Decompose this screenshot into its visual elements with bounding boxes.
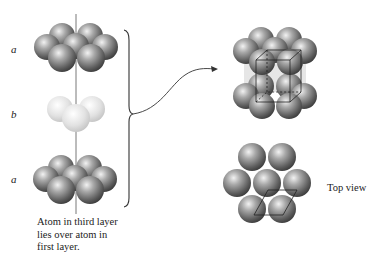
layer-label-top: a (11, 43, 17, 55)
arrowhead-icon (211, 66, 218, 72)
layer-a-bottom (33, 155, 117, 204)
top-view (223, 143, 311, 223)
top-view-label: Top view (327, 182, 366, 193)
hcp-unit-view (233, 27, 317, 119)
hcp-diagram: a b a Atom in third layer lies over atom… (0, 0, 380, 263)
arrow-curve (133, 69, 214, 114)
caption-line: first layer. (37, 241, 118, 254)
caption-line: Atom in third layer (37, 216, 118, 229)
layer-label-middle: b (11, 108, 17, 120)
caption: Atom in third layer lies over atom in fi… (37, 216, 118, 254)
layer-label-bottom: a (11, 173, 17, 185)
brace (124, 30, 133, 207)
caption-line: lies over atom in (37, 229, 118, 242)
